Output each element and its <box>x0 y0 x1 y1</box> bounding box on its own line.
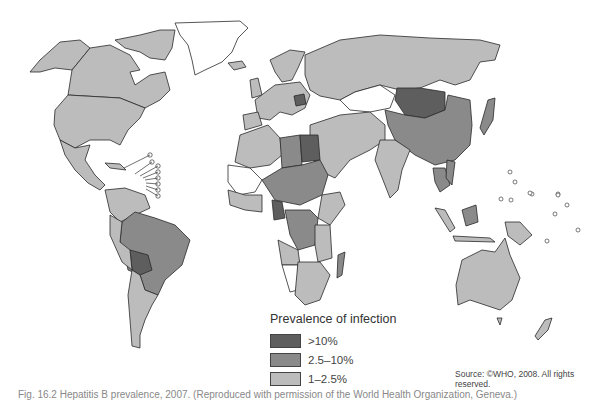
region-new-zealand <box>535 318 552 340</box>
region-libya <box>280 135 302 168</box>
region-india <box>375 140 410 198</box>
region-borneo <box>462 205 478 226</box>
legend-item-gt10: >10% <box>270 331 396 350</box>
source-credit: Source: ©WHO, 2008. All rights reserved. <box>455 369 599 389</box>
region-southern-africa <box>295 262 330 305</box>
region-iberia <box>243 112 262 130</box>
region-romania <box>294 94 306 106</box>
legend-swatch <box>270 353 301 367</box>
region-horn-africa <box>318 192 345 225</box>
figure-caption: Fig. 16.2 Hepatitis B prevalence, 2007. … <box>18 389 517 400</box>
region-uk <box>250 78 262 98</box>
region-new-guinea <box>505 222 532 245</box>
region-scandinavia <box>270 50 305 82</box>
region-tasmania <box>497 318 502 325</box>
region-chad-sudan <box>262 160 328 205</box>
legend-item-2-5-to-10: 2.5–10% <box>270 350 396 369</box>
region-indonesia-islands <box>453 236 495 242</box>
legend-label: 2.5–10% <box>308 354 353 366</box>
region-japan <box>480 98 495 135</box>
legend-swatch <box>270 334 301 348</box>
region-east-africa <box>315 225 332 262</box>
region-mexico <box>60 140 105 190</box>
region-sumatra <box>435 208 455 232</box>
legend-label: >10% <box>308 335 338 347</box>
legend-item-1-to-2-5: 1–2.5% <box>270 369 396 388</box>
region-madagascar <box>337 252 345 278</box>
region-cuba <box>105 163 126 170</box>
region-iceland <box>228 61 246 70</box>
region-north-africa-west <box>235 125 282 168</box>
region-usa <box>54 95 145 148</box>
region-australia <box>456 238 520 310</box>
region-egypt <box>300 135 320 162</box>
region-cameroon <box>272 200 285 220</box>
legend-title: Prevalence of infection <box>270 312 396 326</box>
region-drc <box>285 210 318 250</box>
map-legend: Prevalence of infection >10% 2.5–10% 1–2… <box>270 312 396 388</box>
legend-label: 1–2.5% <box>308 373 347 385</box>
region-mauritania-mali <box>228 165 262 195</box>
legend-swatch <box>270 372 301 386</box>
